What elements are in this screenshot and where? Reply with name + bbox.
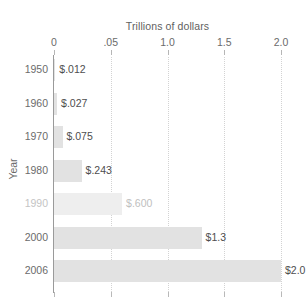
bar [54, 193, 122, 215]
x-axis-tick-mark-bottom [224, 292, 225, 297]
x-axis-tick-mark-bottom [54, 292, 55, 297]
plot-area: $.012$.027$.075$.243$.600$1.3$2.0 [54, 57, 281, 292]
x-axis-tick-label: 0 [51, 36, 57, 48]
y-axis-tick-label: 1990 [0, 197, 48, 209]
x-axis-tick-label: 1.5 [217, 36, 232, 48]
x-axis-tick-mark [54, 50, 55, 55]
bar-value-label: $.075 [67, 130, 93, 142]
bar-value-label: $.012 [59, 63, 85, 75]
gridline [168, 57, 169, 292]
bar-value-label: $.027 [61, 97, 87, 109]
x-axis-tick-mark [224, 50, 225, 55]
bar-value-label: $.243 [86, 164, 112, 176]
x-axis-title: Trillions of dollars [54, 20, 281, 32]
bar [54, 59, 55, 81]
y-axis-tick-label: 1980 [0, 164, 48, 176]
y-axis-tick-label: 1960 [0, 97, 48, 109]
x-axis-tick-mark [281, 50, 282, 55]
y-axis-tick-label: 1950 [0, 63, 48, 75]
x-axis-tick-label: 1.0 [160, 36, 175, 48]
y-axis-tick-label: 1970 [0, 130, 48, 142]
x-axis-tick-label: .05 [103, 36, 118, 48]
bar [54, 227, 202, 249]
x-axis-tick-mark [111, 50, 112, 55]
x-axis-tick-mark-bottom [111, 292, 112, 297]
bar [54, 260, 281, 282]
x-axis-tick-mark [168, 50, 169, 55]
y-axis-tick-label: 2000 [0, 231, 48, 243]
x-axis-tick-mark-bottom [281, 292, 282, 297]
y-axis-tick-label: 2006 [0, 264, 48, 276]
bar-value-label: $1.3 [206, 231, 226, 243]
bar-value-label: $.600 [126, 197, 152, 209]
x-axis-tick-mark-bottom [168, 292, 169, 297]
bar [54, 126, 63, 148]
bar-value-label: $2.0 [285, 264, 305, 276]
x-axis-tick-label: 2.0 [274, 36, 289, 48]
bar [54, 93, 57, 115]
gridline [224, 57, 225, 292]
gridline [281, 57, 282, 292]
bar-chart: Trillions of dollars Year 0.051.01.52.0 … [0, 0, 306, 304]
bar [54, 160, 82, 182]
